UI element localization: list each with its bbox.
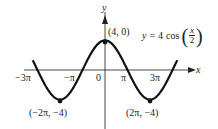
x-axis-label: x: [196, 65, 200, 75]
equation-func: cos: [166, 30, 179, 41]
tick-label-negpi: −π: [64, 73, 75, 83]
equation-label: y = 4 cos ( x 2 ): [142, 25, 203, 45]
equation-coef: 4: [158, 30, 163, 41]
equation-denominator: 2: [190, 36, 195, 45]
origin-label: 0: [96, 73, 101, 83]
min-right-label: (2π, −4): [126, 108, 158, 118]
equation-open-paren: (: [181, 24, 188, 46]
equation-close-paren: ): [196, 24, 203, 46]
y-axis-arrow-icon: [102, 15, 108, 24]
equation-numerator: x: [189, 26, 195, 36]
tick-label-neg3pi: −3π: [15, 73, 31, 83]
x-axis-arrow-icon: [188, 67, 196, 73]
y-axis-label: y: [102, 3, 106, 13]
equation-fraction: x 2: [189, 26, 195, 45]
equation-lhs: y: [142, 30, 146, 41]
min-point-left: [58, 99, 63, 104]
min-point-right: [148, 99, 153, 104]
equation-equals: =: [149, 30, 155, 41]
max-point-label: (4, 0): [108, 27, 130, 37]
tick-label-3pi: 3π: [150, 73, 160, 83]
min-left-label: (−2π, −4): [29, 108, 67, 118]
max-point: [103, 40, 108, 45]
tick-label-pi: π: [121, 73, 126, 83]
